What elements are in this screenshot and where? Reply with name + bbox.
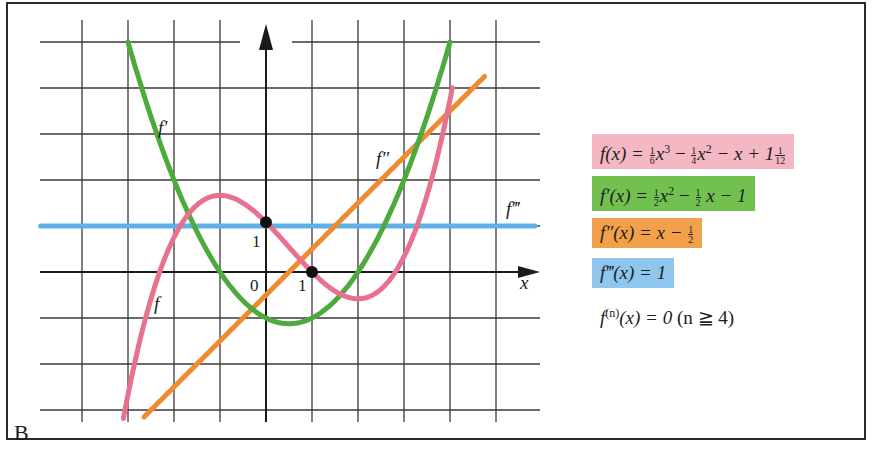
x-axis-label: x [520, 272, 528, 294]
curve-f-prime [128, 42, 450, 324]
fraction: 12 [696, 188, 701, 207]
curve-f [123, 88, 452, 419]
function-plot [0, 0, 872, 460]
curve-label-f-triple-prime: f‴ [506, 198, 519, 220]
fraction: 12 [688, 225, 693, 244]
y-axis-arrow-icon [259, 24, 273, 50]
origin-label: 0 [250, 276, 259, 296]
equation-f-nth: f(n)(x) = 0 (n ≧ 4) [592, 298, 742, 333]
marked-point [260, 216, 272, 228]
equation-f-triple-prime: f‴(x) = 1 [592, 258, 674, 288]
equation-f-prime: f′(x) = 12x2 − 12 x − 1 [592, 176, 755, 211]
y-tick-label-1: 1 [252, 232, 261, 252]
fraction: 14 [691, 146, 696, 165]
panel-label: B [14, 420, 29, 446]
fraction: 112 [775, 146, 785, 165]
fraction: 16 [650, 146, 655, 165]
curve-label-f-prime: f′ [158, 117, 167, 139]
curve-f-double-prime [144, 77, 484, 417]
curve-label-f-double-prime: f″ [376, 148, 389, 170]
eq-f-lhs: f(x) = [600, 143, 644, 164]
fraction: 12 [654, 188, 659, 207]
equation-f: f(x) = 16x3 − 14x2 − x + 1112 [592, 134, 794, 169]
equation-f-double-prime: f″(x) = x − 12 [592, 218, 702, 248]
x-tick-label-1: 1 [298, 276, 307, 296]
marked-point [306, 266, 318, 278]
curve-label-f: f [154, 293, 159, 315]
